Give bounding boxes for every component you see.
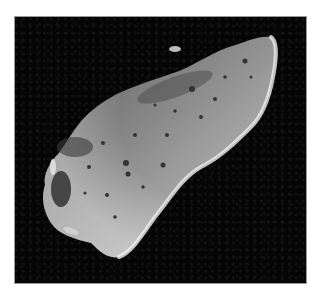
asteroid-image bbox=[15, 17, 306, 283]
asteroid-photo-frame bbox=[14, 16, 307, 284]
